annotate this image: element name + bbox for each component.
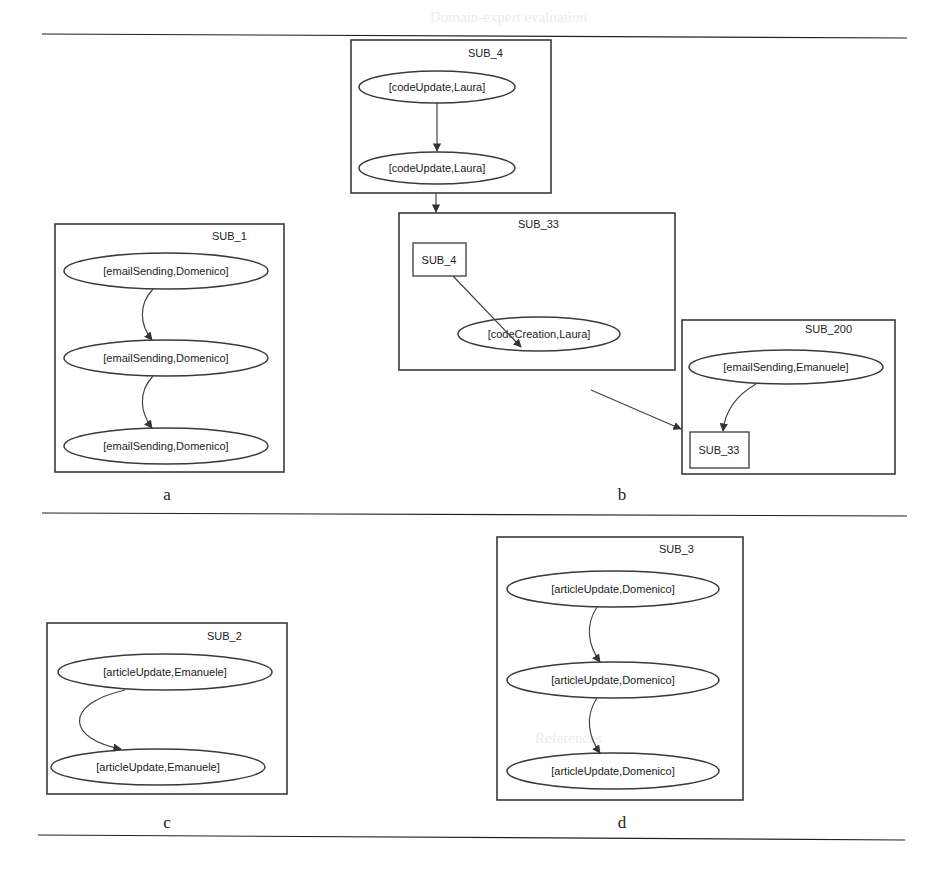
caption-c: c xyxy=(163,813,171,832)
edge-arrow xyxy=(142,289,153,340)
top-rule xyxy=(42,34,907,38)
node-label: [articleUpdate,Emanuele] xyxy=(96,761,220,773)
bleed-through-heading: Domain-expert evaluation xyxy=(430,9,588,25)
caption-b: b xyxy=(618,485,627,504)
node-label: [emailSending,Domenico] xyxy=(103,265,228,277)
edge-arrow xyxy=(589,607,600,662)
node-label: SUB_4 xyxy=(422,254,457,266)
subgraph-sub200-label: SUB_200 xyxy=(805,323,852,335)
subgraph-sub1-label: SUB_1 xyxy=(212,230,247,242)
node-label: [articleUpdate,Domenico] xyxy=(551,583,675,595)
node-label: [codeCreation,Laura] xyxy=(488,328,591,340)
edge-arrow xyxy=(723,384,756,431)
node-label: SUB_33 xyxy=(699,444,740,456)
edge-arrow xyxy=(79,690,125,749)
edge-arrow xyxy=(142,376,153,428)
figure-canvas: Domain-expert evaluation References SUB_… xyxy=(0,0,938,874)
subgraph-sub4-label: SUB_4 xyxy=(468,47,503,59)
node-label: [codeUpdate,Laura] xyxy=(389,81,486,93)
node-label: [codeUpdate,Laura] xyxy=(389,162,486,174)
subgraph-sub2-label: SUB_2 xyxy=(207,630,242,642)
middle-rule xyxy=(42,513,907,516)
panel-c: SUB_2 [articleUpdate,Emanuele] [articleU… xyxy=(47,623,287,832)
subgraph-sub33-label: SUB_33 xyxy=(518,218,559,230)
panel-d: SUB_3 [articleUpdate,Domenico] [articleU… xyxy=(497,537,743,832)
node-label: [articleUpdate,Domenico] xyxy=(551,674,675,686)
node-label: [emailSending,Domenico] xyxy=(103,440,228,452)
panel-b: SUB_4 [codeUpdate,Laura] [codeUpdate,Lau… xyxy=(351,40,895,504)
node-label: [articleUpdate,Domenico] xyxy=(551,765,675,777)
node-label: [emailSending,Emanuele] xyxy=(723,361,848,373)
caption-a: a xyxy=(163,485,171,504)
edge-codecreation-to-sub200 xyxy=(591,390,681,429)
node-label: [articleUpdate,Emanuele] xyxy=(103,666,227,678)
subgraph-sub3-label: SUB_3 xyxy=(659,543,694,555)
panel-a: SUB_1 [emailSending,Domenico] [emailSend… xyxy=(55,224,284,504)
node-label: [emailSending,Domenico] xyxy=(103,352,228,364)
caption-d: d xyxy=(618,813,627,832)
bottom-rule xyxy=(38,835,905,840)
